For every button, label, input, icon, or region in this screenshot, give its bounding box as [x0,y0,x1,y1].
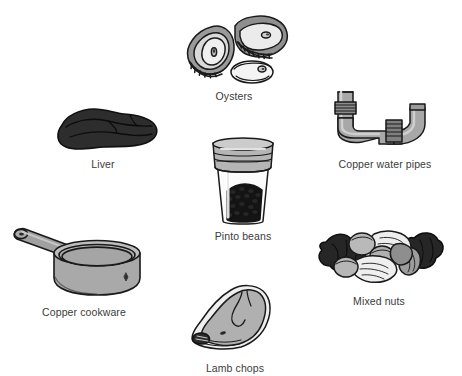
figure-item-oysters: Oysters [178,14,290,103]
copper-pipe-icon [324,90,446,152]
figure-item-label-oysters: Oysters [178,90,290,103]
figure-item-label-lamb-chops: Lamb chops [179,362,291,375]
figure-item-mixed-nuts: Mixed nuts [312,222,446,308]
lamb-chop-icon [179,281,291,357]
mixed-nuts-icon [312,222,446,290]
figure-item-pinto-beans: Pinto beans [197,137,289,243]
saucepan-icon [8,219,160,299]
figure-item-copper-water-pipes: Copper water pipes [324,90,446,171]
figure-item-label-liver: Liver [42,158,164,171]
figure-item-label-copper-water-pipes: Copper water pipes [324,158,446,171]
figure-item-label-mixed-nuts: Mixed nuts [312,295,446,308]
liver-icon [42,103,164,153]
figure-item-label-pinto-beans: Pinto beans [197,230,289,243]
bean-jar-icon [197,137,289,225]
figure-item-label-copper-cookware: Copper cookware [8,306,160,319]
figure-item-copper-cookware: Copper cookware [8,219,160,319]
oysters-icon [178,14,290,86]
food-sources-illustration-figure: Oysters Liver [0,0,462,376]
figure-item-lamb-chops: Lamb chops [179,281,291,375]
figure-item-liver: Liver [42,103,164,171]
